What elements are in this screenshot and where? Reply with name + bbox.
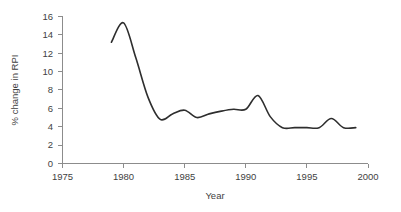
y-tick-labels: 16 14 12 10 8 6 4 2 0 bbox=[42, 11, 53, 169]
y-tick-label: 10 bbox=[42, 66, 53, 77]
y-tick-label: 12 bbox=[42, 48, 53, 59]
y-tick-label: 8 bbox=[48, 84, 53, 95]
x-tick-marks bbox=[63, 164, 369, 169]
y-tick-label: 0 bbox=[48, 158, 53, 169]
x-tick-label: 1990 bbox=[235, 171, 256, 182]
y-tick-label: 4 bbox=[48, 121, 53, 132]
x-tick-label: 1985 bbox=[174, 171, 195, 182]
y-tick-label: 6 bbox=[48, 103, 53, 114]
y-tick-label: 2 bbox=[48, 139, 53, 150]
x-tick-label: 1995 bbox=[296, 171, 317, 182]
y-axis-title: % change in RPI bbox=[9, 55, 20, 126]
chart-plot-area: 16 14 12 10 8 6 4 2 0 1975 1980 1985 199… bbox=[0, 0, 401, 212]
y-tick-marks bbox=[58, 17, 63, 164]
y-tick-label: 16 bbox=[42, 11, 53, 22]
x-tick-label: 1980 bbox=[113, 171, 134, 182]
x-tick-label: 1975 bbox=[52, 171, 73, 182]
rpi-line-chart: 16 14 12 10 8 6 4 2 0 1975 1980 1985 199… bbox=[0, 0, 401, 212]
data-series-line bbox=[111, 23, 355, 129]
x-tick-labels: 1975 1980 1985 1990 1995 2000 bbox=[52, 171, 379, 182]
x-axis-title: Year bbox=[205, 190, 224, 201]
x-tick-label: 2000 bbox=[357, 171, 378, 182]
y-tick-label: 14 bbox=[42, 29, 53, 40]
